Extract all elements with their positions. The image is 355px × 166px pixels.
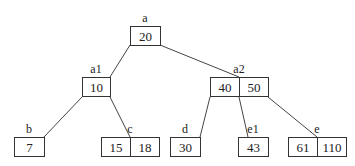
key-value: 43 bbox=[247, 140, 260, 155]
node-a: a20 bbox=[131, 11, 161, 46]
node-d: d30 bbox=[171, 122, 201, 157]
node-c: c1518 bbox=[102, 122, 160, 157]
key-value: 50 bbox=[248, 80, 261, 95]
node-label: a bbox=[142, 11, 148, 25]
node-e: e61110 bbox=[289, 122, 347, 157]
edge-a-a2 bbox=[160, 45, 239, 77]
node-label: d bbox=[182, 122, 188, 136]
key-value: 61 bbox=[297, 140, 310, 155]
edge-a2-d bbox=[200, 97, 210, 137]
key-value: 10 bbox=[90, 80, 103, 95]
node-label: e bbox=[314, 122, 319, 136]
edge-a1-b bbox=[44, 97, 82, 137]
key-value: 20 bbox=[139, 29, 152, 44]
key-value: 110 bbox=[322, 140, 341, 155]
node-b: b7 bbox=[15, 122, 45, 157]
node-label: e1 bbox=[247, 122, 258, 136]
b-tree-diagram: a20a110a24050b7c1518d30e143e61110 bbox=[0, 0, 355, 166]
key-value: 15 bbox=[110, 140, 123, 155]
nodes-group: a20a110a24050b7c1518d30e143e61110 bbox=[15, 11, 347, 157]
node-a1: a110 bbox=[83, 62, 111, 97]
key-value: 7 bbox=[26, 140, 33, 155]
node-a2: a24050 bbox=[211, 62, 269, 97]
node-label: b bbox=[26, 122, 32, 136]
edge-a-a1 bbox=[110, 45, 130, 77]
node-label: c bbox=[127, 122, 132, 136]
key-value: 18 bbox=[139, 140, 152, 155]
key-value: 30 bbox=[179, 140, 192, 155]
node-e1: e143 bbox=[239, 122, 269, 157]
node-label: a1 bbox=[90, 62, 101, 76]
node-label: a2 bbox=[233, 62, 244, 76]
key-value: 40 bbox=[219, 80, 232, 95]
edge-a2-e bbox=[268, 97, 317, 137]
